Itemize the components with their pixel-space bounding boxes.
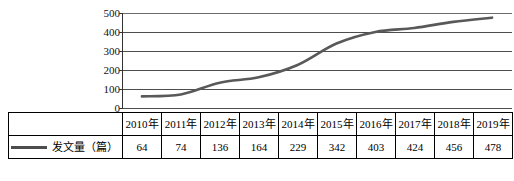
table-cell-value: 478 <box>474 136 513 159</box>
table-cell-value: 342 <box>318 136 357 159</box>
series-line-发文量 <box>142 18 492 97</box>
table-cell-value: 403 <box>357 136 396 159</box>
table-header-year: 2017年 <box>396 113 435 136</box>
table-header-year: 2010年 <box>123 113 162 136</box>
table-cell-value: 164 <box>240 136 279 159</box>
table-header-year: 2011年 <box>162 113 201 136</box>
table-cell-value: 424 <box>396 136 435 159</box>
table-header-year: 2015年 <box>318 113 357 136</box>
table-cell-value: 229 <box>279 136 318 159</box>
table-row-years: 2010年 2011年 2012年 2013年 2014年 2015年 2016… <box>9 113 513 136</box>
chart-figure: 500 400 300 200 100 0 <box>0 0 514 181</box>
legend-label: 发文量（篇） <box>52 141 118 153</box>
table-header-year: 2014年 <box>279 113 318 136</box>
table-header-year: 2018年 <box>435 113 474 136</box>
line-chart: 500 400 300 200 100 0 <box>0 0 514 115</box>
chart-canvas <box>0 0 514 115</box>
table-cell-value: 456 <box>435 136 474 159</box>
legend-line-swatch-icon <box>11 146 47 149</box>
table-corner-cell <box>9 113 123 136</box>
table-row-values: 发文量（篇） 64 74 136 164 229 342 403 424 456… <box>9 136 513 159</box>
table-cell-value: 74 <box>162 136 201 159</box>
data-table: 2010年 2011年 2012年 2013年 2014年 2015年 2016… <box>8 112 513 159</box>
table-header-year: 2013年 <box>240 113 279 136</box>
table-cell-value: 64 <box>123 136 162 159</box>
legend-entry: 发文量（篇） <box>9 136 123 159</box>
table-cell-value: 136 <box>201 136 240 159</box>
table-header-year: 2019年 <box>474 113 513 136</box>
y-axis <box>119 14 123 109</box>
table-header-year: 2016年 <box>357 113 396 136</box>
table-header-year: 2012年 <box>201 113 240 136</box>
